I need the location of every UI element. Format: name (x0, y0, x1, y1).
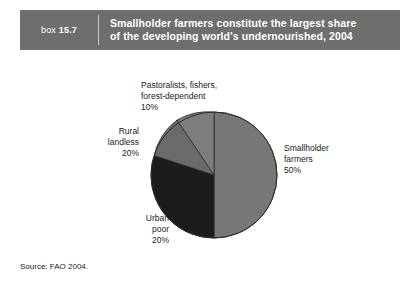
box-figure-page: box 15.7 Smallholder farmers constitute … (0, 0, 417, 291)
pie-label-pastoralists-line1: Pastoralists, fishers, (141, 80, 217, 91)
figure-header-bar: box 15.7 Smallholder farmers constitute … (20, 10, 400, 50)
pie-label-rural-value: 20% (66, 148, 139, 159)
pie-label-urban-line2: poor (96, 224, 169, 235)
pie-label-pastoralists: Pastoralists, fishers, forest-dependent … (141, 80, 217, 113)
pie-label-pastoralists-line2: forest-dependent (141, 91, 217, 102)
pie-label-urban-line1: Urban (96, 213, 169, 224)
pie-label-rural-line1: Rural (66, 126, 139, 137)
chart-area: Pastoralists, fishers, forest-dependent … (20, 58, 400, 281)
figure-title: Smallholder farmers constitute the large… (110, 17, 356, 44)
header-divider (98, 15, 99, 45)
pie-label-pastoralists-value: 10% (141, 102, 217, 113)
pie-label-smallholder-line2: farmers (284, 154, 329, 165)
box-word: box (41, 25, 56, 35)
figure-title-line1: Smallholder farmers constitute the large… (110, 17, 356, 31)
pie-slice-smallholder-farmers (214, 112, 277, 238)
pie-label-urban-value: 20% (96, 235, 169, 246)
box-number: 15.7 (59, 25, 77, 35)
figure-title-line2: of the developing world's undernourished… (110, 30, 356, 44)
pie-label-urban-poor: Urban poor 20% (96, 213, 169, 246)
pie-label-smallholder-value: 50% (284, 165, 329, 176)
pie-label-rural-landless: Rural landless 20% (66, 126, 139, 159)
pie-label-smallholder-line1: Smallholder (284, 143, 329, 154)
box-number-label: box 15.7 (20, 25, 98, 35)
pie-label-smallholder-farmers: Smallholder farmers 50% (284, 143, 329, 176)
pie-label-rural-line2: landless (66, 137, 139, 148)
source-note: Source: FAO 2004. (20, 262, 88, 271)
